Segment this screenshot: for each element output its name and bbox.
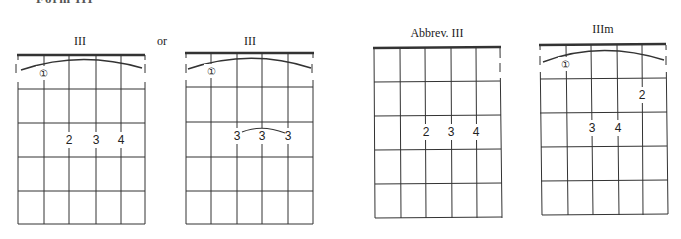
- finger-label: 2: [66, 133, 73, 147]
- frets: [186, 87, 313, 224]
- finger-label: 3: [285, 129, 292, 143]
- finger-label: 3: [448, 125, 455, 139]
- barre-finger-1: ①: [39, 68, 48, 79]
- barre-finger-1: ①: [207, 66, 216, 77]
- finger-label: 2: [423, 125, 430, 139]
- chord-diagram-3: [373, 47, 504, 218]
- finger-label: 2: [639, 88, 646, 102]
- finger-label: 3: [234, 129, 241, 143]
- finger-label: 4: [473, 125, 480, 139]
- nut: [539, 44, 666, 45]
- chord-diagram-2: [182, 53, 317, 224]
- chord-diagrams-canvas: ① 2 3 4 ① 3 3 3: [0, 0, 681, 239]
- finger-label: 3: [93, 133, 100, 147]
- frets: [374, 81, 502, 218]
- chord-diagram-1: [14, 55, 149, 224]
- finger-label: 3: [589, 121, 596, 135]
- finger-label: 4: [118, 133, 125, 147]
- nut: [373, 47, 501, 48]
- barre-finger-1: ①: [561, 59, 570, 70]
- finger-label: 3: [259, 129, 266, 143]
- chord-diagram-4: [536, 44, 670, 215]
- finger-label: 4: [615, 121, 622, 135]
- frets: [18, 89, 145, 224]
